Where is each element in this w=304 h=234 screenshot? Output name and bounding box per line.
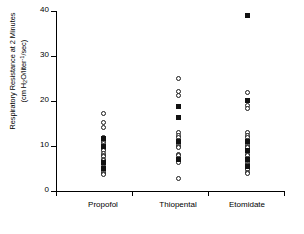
data-point-open-circle	[101, 125, 106, 130]
data-point-filled-square	[245, 164, 250, 169]
data-point-open-circle	[176, 145, 181, 150]
data-point-open-circle	[101, 172, 106, 177]
data-point-filled-square	[176, 139, 181, 144]
data-point-filled-square	[101, 144, 106, 149]
data-point-open-circle	[101, 111, 106, 116]
data-point-open-circle	[101, 120, 106, 125]
data-point-filled-square	[101, 166, 106, 171]
data-point-open-circle	[245, 106, 250, 111]
data-point-open-circle	[176, 176, 181, 181]
data-point-open-circle	[176, 76, 181, 81]
data-point-filled-square	[176, 104, 181, 109]
data-point-filled-square	[245, 139, 250, 144]
data-point-filled-square	[101, 136, 106, 141]
data-point-open-circle	[245, 90, 250, 95]
data-point-filled-square	[245, 13, 250, 18]
data-point-filled-square	[176, 115, 181, 120]
data-point-filled-square	[245, 148, 250, 153]
data-point-open-circle	[245, 171, 250, 176]
data-point-filled-square	[245, 98, 250, 103]
data-point-filled-square	[245, 157, 250, 162]
data-point-filled-square	[176, 157, 181, 162]
scatter-plot-figure: Respiratory Resistance at 2 Minutes (cm …	[0, 0, 304, 234]
plot-area	[0, 0, 304, 234]
data-point-filled-square	[101, 160, 106, 165]
data-point-open-circle	[176, 93, 181, 98]
